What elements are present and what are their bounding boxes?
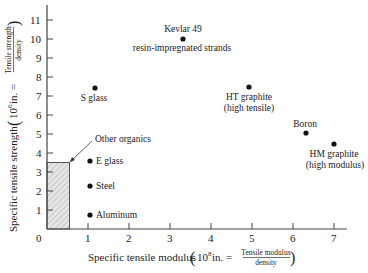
svg-text:6: 6 bbox=[290, 232, 296, 244]
svg-text:Specific tensile strength: Specific tensile strength bbox=[7, 126, 19, 232]
svg-text:5: 5 bbox=[36, 128, 42, 140]
point-e-glass bbox=[87, 158, 92, 163]
svg-text:(: ( bbox=[190, 249, 195, 267]
label-boron: Boron bbox=[293, 119, 317, 129]
svg-text:11: 11 bbox=[30, 14, 41, 26]
x-ticks: 0 1 2 3 4 5 6 7 bbox=[36, 223, 337, 244]
svg-text:in. =: in. = bbox=[212, 251, 232, 263]
label-kevlar-49: Kevlar 49 bbox=[164, 24, 202, 34]
region-label-other-organics: Other organics bbox=[95, 134, 151, 144]
svg-text:Specific tensile modulus: Specific tensile modulus bbox=[88, 251, 196, 263]
svg-text:4: 4 bbox=[208, 232, 214, 244]
svg-text:1: 1 bbox=[85, 232, 91, 244]
svg-text:): ) bbox=[290, 249, 295, 267]
point-s-glass bbox=[92, 85, 97, 90]
svg-text:in. =: in. = bbox=[7, 84, 19, 104]
point-steel bbox=[87, 183, 92, 188]
svg-text:0: 0 bbox=[36, 232, 42, 244]
sublabel-ht-graphite: (high tensile) bbox=[224, 103, 274, 114]
svg-text:2: 2 bbox=[36, 185, 42, 197]
label-e-glass: E glass bbox=[96, 156, 123, 166]
point-kevlar-49 bbox=[180, 36, 185, 41]
svg-text:2: 2 bbox=[126, 232, 132, 244]
svg-text:): ) bbox=[5, 21, 23, 26]
y-axis-label: Specific tensile strength ( 10 6 in. = T… bbox=[4, 21, 23, 232]
sublabel-kevlar-49: resin-impregnated strands bbox=[133, 43, 232, 53]
point-hm-graphite bbox=[331, 141, 336, 146]
label-hm-graphite: HM graphite bbox=[310, 149, 359, 159]
svg-text:Tensile strength: Tensile strength bbox=[4, 26, 13, 74]
point-boron bbox=[303, 130, 308, 135]
label-steel: Steel bbox=[96, 181, 115, 191]
svg-text:5: 5 bbox=[249, 232, 255, 244]
svg-text:8: 8 bbox=[36, 71, 42, 83]
svg-text:4: 4 bbox=[36, 147, 42, 159]
point-ht-graphite bbox=[246, 84, 251, 89]
label-ht-graphite: HT graphite bbox=[226, 92, 272, 102]
svg-text:7: 7 bbox=[36, 90, 42, 102]
svg-text:9: 9 bbox=[36, 52, 42, 64]
svg-text:density: density bbox=[255, 258, 277, 267]
label-aluminum: Aluminum bbox=[96, 210, 138, 220]
svg-text:10: 10 bbox=[7, 108, 19, 120]
label-s-glass: S glass bbox=[81, 93, 108, 103]
svg-text:density: density bbox=[14, 39, 23, 61]
scatter-chart: Other organics 1 2 3 4 5 6 7 8 9 10 11 0… bbox=[0, 0, 368, 273]
x-axis-label: Specific tensile modulus ( 10 8 in. = Te… bbox=[88, 248, 295, 267]
sublabel-hm-graphite: (high modulus) bbox=[306, 160, 364, 171]
svg-text:7: 7 bbox=[331, 232, 337, 244]
svg-text:6: 6 bbox=[36, 109, 42, 121]
svg-text:(: ( bbox=[5, 121, 23, 126]
svg-text:10: 10 bbox=[30, 33, 42, 45]
svg-text:10: 10 bbox=[197, 251, 209, 263]
data-points: Kevlar 49 resin-impregnated strands S gl… bbox=[81, 24, 365, 220]
svg-text:3: 3 bbox=[36, 166, 42, 178]
point-aluminum bbox=[87, 212, 92, 217]
svg-text:1: 1 bbox=[36, 204, 42, 216]
svg-text:Tensile modulus: Tensile modulus bbox=[241, 248, 290, 257]
svg-text:3: 3 bbox=[167, 232, 173, 244]
